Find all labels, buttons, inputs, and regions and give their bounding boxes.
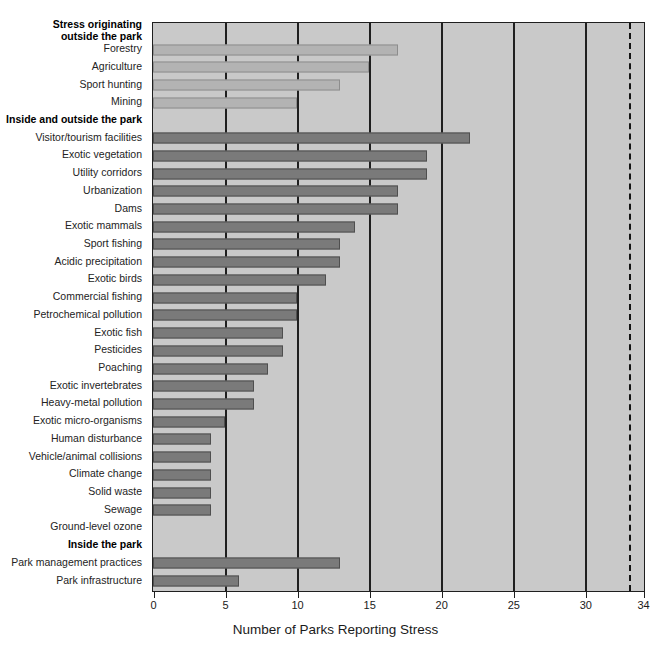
x-tick-label-20: 20 <box>436 599 448 611</box>
bar <box>153 345 283 356</box>
y-axis-label: Inside the park <box>0 536 148 554</box>
x-tick-5 <box>226 592 228 598</box>
bar <box>153 328 283 339</box>
x-tick-label-10: 10 <box>291 599 303 611</box>
bar <box>153 257 340 268</box>
bar <box>153 80 340 91</box>
y-axis-label: Exotic micro-organisms <box>0 412 148 430</box>
bar-chart: Stress originatingoutside the parkForest… <box>0 0 671 657</box>
y-axis-label: Agriculture <box>0 57 148 75</box>
bar-row <box>153 289 644 307</box>
bar <box>153 239 340 250</box>
x-tick-30 <box>586 592 588 598</box>
x-tick-0 <box>154 592 156 598</box>
x-tick-label-15: 15 <box>364 599 376 611</box>
bar-row <box>153 94 644 112</box>
y-axis-label: Park management practices <box>0 554 148 572</box>
bar-row <box>153 395 644 413</box>
y-axis-label: Exotic mammals <box>0 217 148 235</box>
bar <box>153 133 470 144</box>
y-axis-label: Exotic vegetation <box>0 146 148 164</box>
bar-row <box>153 112 644 130</box>
y-axis-labels: Stress originatingoutside the parkForest… <box>0 22 148 592</box>
bar-row <box>153 572 644 590</box>
bar-row <box>153 271 644 289</box>
x-tick-20 <box>442 592 444 598</box>
bar-row <box>153 431 644 449</box>
bar <box>153 97 297 108</box>
bar <box>153 398 254 409</box>
y-axis-label: Visitor/tourism facilities <box>0 128 148 146</box>
y-axis-label: Vehicle/animal collisions <box>0 447 148 465</box>
y-axis-label: Forestry <box>0 40 148 58</box>
bar-row <box>153 519 644 537</box>
bar <box>153 487 211 498</box>
bar <box>153 221 355 232</box>
y-axis-label: Exotic birds <box>0 270 148 288</box>
y-axis-label: Park infrastructure <box>0 571 148 589</box>
bar-row <box>153 555 644 573</box>
bar <box>153 62 369 73</box>
x-tick-label-25: 25 <box>508 599 520 611</box>
y-axis-label: Commercial fishing <box>0 288 148 306</box>
y-axis-label: Heavy-metal pollution <box>0 394 148 412</box>
x-tick-label-0: 0 <box>150 599 156 611</box>
bar <box>153 416 225 427</box>
bar <box>153 44 398 55</box>
bar-row <box>153 253 644 271</box>
bar <box>153 310 297 321</box>
bar <box>153 576 239 587</box>
x-tick-25 <box>514 592 516 598</box>
y-axis-label: Urbanization <box>0 181 148 199</box>
x-axis: 05101520253034 <box>152 592 645 614</box>
y-axis-label: Inside and outside the park <box>0 111 148 129</box>
x-tick-label-34: 34 <box>637 599 649 611</box>
bar <box>153 168 427 179</box>
bar <box>153 363 268 374</box>
bar <box>153 274 326 285</box>
x-tick-15 <box>370 592 372 598</box>
y-axis-label: Exotic fish <box>0 323 148 341</box>
bar <box>153 434 211 445</box>
bar-row <box>153 537 644 555</box>
bar-row <box>153 182 644 200</box>
y-axis-label: Utility corridors <box>0 164 148 182</box>
bar-row <box>153 236 644 254</box>
y-axis-label: Pesticides <box>0 341 148 359</box>
bar-row <box>153 129 644 147</box>
bar-row <box>153 76 644 94</box>
bar-row <box>153 23 644 41</box>
bar <box>153 558 340 569</box>
bar <box>153 204 398 215</box>
y-axis-label: Climate change <box>0 465 148 483</box>
x-tick-label-5: 5 <box>222 599 228 611</box>
x-axis-title: Number of Parks Reporting Stress <box>0 622 671 637</box>
bar <box>153 381 254 392</box>
y-axis-label: Petrochemical pollution <box>0 306 148 324</box>
bar-row <box>153 218 644 236</box>
bar <box>153 292 297 303</box>
bar-row <box>153 58 644 76</box>
bar-row <box>153 448 644 466</box>
bar-row <box>153 484 644 502</box>
bar-rows <box>153 23 644 591</box>
y-axis-label: Sewage <box>0 500 148 518</box>
y-axis-label: Exotic invertebrates <box>0 376 148 394</box>
y-axis-label: Sport hunting <box>0 75 148 93</box>
y-axis-label: Ground-level ozone <box>0 518 148 536</box>
bar-row <box>153 147 644 165</box>
bar <box>153 469 211 480</box>
bar-row <box>153 501 644 519</box>
bar-row <box>153 360 644 378</box>
y-axis-label: Poaching <box>0 359 148 377</box>
bar-row <box>153 200 644 218</box>
y-axis-label: Solid waste <box>0 483 148 501</box>
bar-row <box>153 377 644 395</box>
bar-row <box>153 165 644 183</box>
y-axis-label: Mining <box>0 93 148 111</box>
x-tick-10 <box>298 592 300 598</box>
x-tick-label-30: 30 <box>580 599 592 611</box>
bar <box>153 150 427 161</box>
bar <box>153 505 211 516</box>
bar <box>153 186 398 197</box>
